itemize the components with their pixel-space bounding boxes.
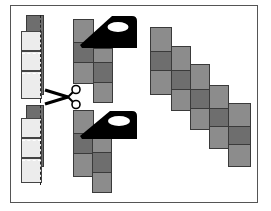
- fabric-square: [93, 62, 113, 83]
- fabric-square: [73, 62, 94, 84]
- seam-line: [22, 140, 41, 141]
- fabric-square: [93, 82, 113, 103]
- fabric-square: [73, 153, 94, 177]
- fabric-square: [190, 89, 210, 109]
- iron-icon: [80, 15, 138, 49]
- seam-line: [22, 160, 41, 161]
- fabric-square: [190, 64, 210, 90]
- fabric-square: [209, 85, 229, 109]
- light-square: [21, 118, 42, 138]
- light-square: [21, 71, 42, 99]
- fabric-square: [150, 51, 172, 71]
- fabric-square: [209, 108, 229, 127]
- fabric-square: [171, 70, 191, 90]
- fabric-square: [171, 46, 191, 71]
- light-square: [21, 158, 42, 183]
- light-square: [21, 51, 42, 71]
- fabric-square: [150, 27, 172, 52]
- seam-line: [22, 53, 41, 54]
- light-square: [21, 138, 42, 158]
- fabric-square: [228, 126, 251, 145]
- seam-line: [22, 73, 41, 74]
- seam-line: [40, 100, 41, 185]
- iron-icon: [80, 110, 138, 140]
- seam-line: [40, 15, 41, 101]
- fabric-square: [171, 89, 191, 111]
- fabric-square: [92, 152, 112, 173]
- light-square: [21, 31, 42, 51]
- fabric-square: [92, 172, 112, 193]
- fabric-square: [93, 48, 113, 63]
- fabric-square: [228, 144, 251, 167]
- fabric-square: [190, 108, 210, 130]
- scissors-icon: [44, 84, 82, 110]
- fabric-square: [228, 103, 251, 127]
- fabric-square: [209, 126, 229, 149]
- fabric-square: [150, 70, 172, 95]
